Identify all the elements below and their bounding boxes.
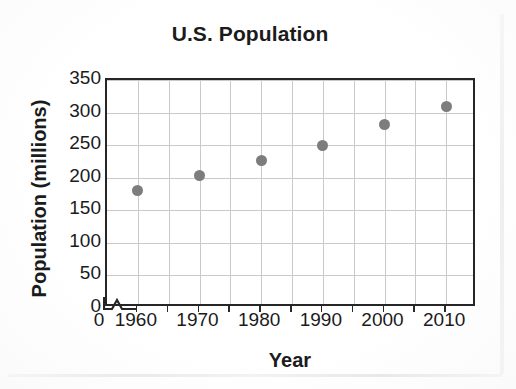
gridline-vertical [292,80,293,304]
x-axis-tick-label: 1990 [300,309,342,331]
x-axis-tick-mark [259,306,261,312]
y-axis-tick-label: 150 [55,197,101,219]
x-axis-tick-label: 2000 [361,309,403,331]
data-point [256,155,267,166]
plot-area [105,78,475,306]
x-axis-tick-label: 1980 [238,309,280,331]
gridline-horizontal [107,275,473,276]
y-axis-tick-label: 350 [55,67,101,89]
x-axis-tick-mark [383,306,385,312]
chart-title: U.S. Population [0,22,500,46]
gridline-vertical [230,80,231,304]
x-axis-origin-label: 0 [94,309,105,331]
y-axis-tick-label: 300 [55,100,101,122]
x-axis-tick-label: 2010 [423,309,465,331]
gridline-vertical [385,80,386,304]
gridline-horizontal [107,178,473,179]
y-axis-tick-label: 250 [55,132,101,154]
gridlines [107,80,473,304]
gridline-horizontal [107,243,473,244]
x-axis-tick-mark [228,306,230,312]
data-point [441,101,452,112]
x-axis-tick-label: 1960 [115,309,157,331]
x-axis-tick-label: 1970 [176,309,218,331]
x-axis-title: Year [105,349,475,372]
gridline-vertical [446,80,447,304]
gridline-horizontal [107,145,473,146]
x-axis-tick-mark [413,306,415,312]
gridline-horizontal [107,210,473,211]
scatter-plot-figure: U.S. Population Population (millions) Ye… [0,0,516,389]
y-axis-tick-label: 50 [55,262,101,284]
y-axis-tick-labels: 050100150200250300350 [53,78,101,306]
gridline-vertical [261,80,262,304]
gridline-vertical [323,80,324,304]
x-axis-tick-mark [290,306,292,312]
gridline-vertical [200,80,201,304]
x-axis-tick-mark [321,306,323,312]
gridline-horizontal [107,80,473,81]
data-point [379,119,390,130]
data-point [317,140,328,151]
x-axis-tick-labels: 196019701980199020002010 [105,309,475,335]
y-axis-tick-label: 200 [55,165,101,187]
x-axis-tick-mark [352,306,354,312]
y-axis-title: Population (millions) [28,74,51,324]
x-axis-tick-mark [198,306,200,312]
x-axis-tick-mark [167,306,169,312]
gridline-horizontal [107,113,473,114]
axis-break-zigzag-icon [103,296,137,312]
y-axis-tick-label: 100 [55,230,101,252]
x-axis-tick-mark [444,306,446,312]
gridline-vertical [354,80,355,304]
gridline-vertical [169,80,170,304]
gridline-vertical [415,80,416,304]
